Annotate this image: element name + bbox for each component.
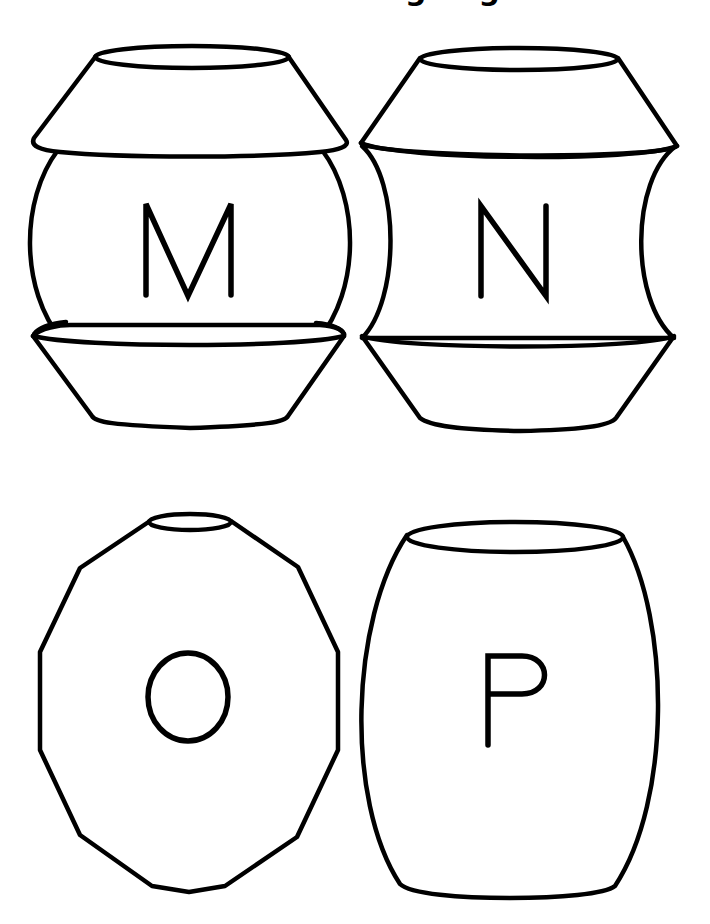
bead-n-top-hole xyxy=(420,48,618,70)
bead-m-top-cap xyxy=(33,56,347,157)
bead-p-body xyxy=(361,535,658,898)
bead-sheet: M N O P xyxy=(0,0,710,924)
bead-n xyxy=(361,48,677,431)
bead-n-bottom-cap xyxy=(362,336,674,431)
bead-n-body xyxy=(362,146,676,338)
bead-o xyxy=(40,514,338,892)
bead-m-top-hole xyxy=(95,46,289,68)
bead-m-body xyxy=(30,150,350,340)
bead-m xyxy=(30,46,350,428)
bead-o-body xyxy=(40,521,338,892)
bead-p-top-hole xyxy=(407,522,623,552)
bead-n-top-cap xyxy=(361,58,677,155)
bead-p xyxy=(361,522,658,898)
bead-o-top-hole xyxy=(149,514,231,530)
